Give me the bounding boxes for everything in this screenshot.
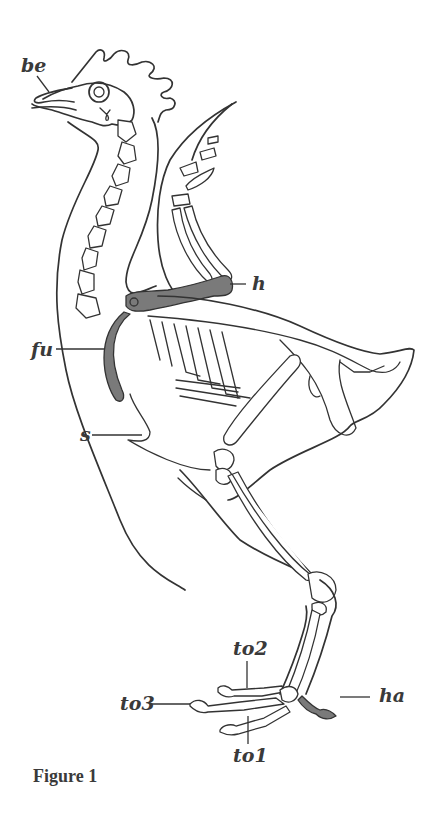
- label-to2: to2: [233, 639, 268, 658]
- hallux-bone: [298, 696, 336, 719]
- humerus-bone: [126, 276, 233, 312]
- eye-socket: [89, 82, 109, 102]
- label-h: h: [252, 274, 266, 293]
- body-outline: [158, 296, 414, 500]
- femur-bone: [224, 355, 301, 445]
- ribs: [150, 320, 250, 406]
- pelvis: [280, 340, 356, 435]
- sternum: [128, 394, 210, 470]
- label-fu: fu: [31, 340, 53, 359]
- label-ha: ha: [379, 686, 405, 705]
- label-s: s: [80, 425, 91, 444]
- beak: [34, 88, 74, 103]
- label-to3: to3: [120, 694, 155, 713]
- furcula-bone: [104, 312, 130, 401]
- label-be: be: [21, 56, 46, 75]
- wing-bones: [172, 136, 232, 283]
- toe-bones: [190, 686, 298, 735]
- chicken-skeleton-diagram: [0, 0, 435, 818]
- leader-be: [37, 76, 49, 92]
- label-to1: to1: [233, 746, 268, 765]
- figure-caption: Figure 1: [33, 766, 97, 787]
- comb: [72, 50, 175, 122]
